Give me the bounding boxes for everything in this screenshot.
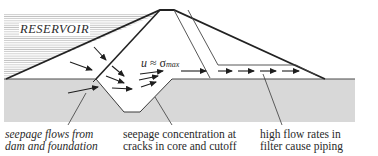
annotation-line: high flow rates in xyxy=(260,128,343,140)
annotation-seepage-flows: seepage flows from dam and foundation xyxy=(5,128,98,152)
annotation-high-flow-rates: high flow rates in filter cause piping xyxy=(260,128,343,152)
equation-subscript: max xyxy=(166,60,179,69)
reservoir-label: RESERVOIR xyxy=(19,23,90,36)
foundation xyxy=(4,79,355,122)
equation-op: ≈ xyxy=(150,56,157,70)
equation-lhs: u xyxy=(141,56,147,70)
annotation-seepage-concentration: seepage concentration at cracks in core … xyxy=(123,128,236,152)
pore-pressure-equation: u ≈ σmax xyxy=(141,56,179,71)
annotation-line: dam and foundation xyxy=(5,140,98,152)
annotation-line: cracks in core and cutoff xyxy=(123,140,236,152)
annotation-line: filter cause piping xyxy=(260,140,343,152)
annotation-line: seepage flows from xyxy=(5,128,98,140)
annotation-line: seepage concentration at xyxy=(123,128,236,140)
